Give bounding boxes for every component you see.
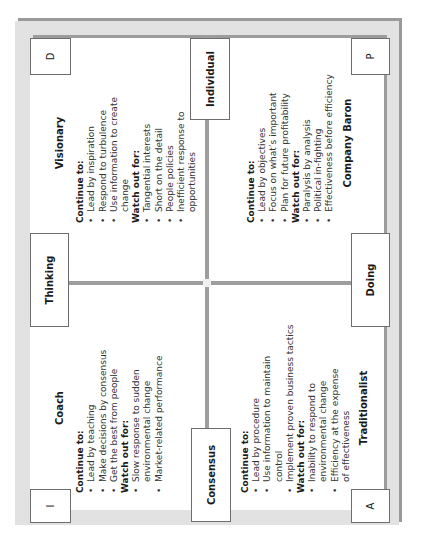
axis-label-thinking: Thinking bbox=[30, 233, 69, 327]
list-item: Focus on what’s important bbox=[268, 63, 279, 223]
axis-label-text: Individual bbox=[205, 51, 216, 107]
watch-list: Inability to respond to environmental ch… bbox=[307, 323, 352, 493]
continue-list: Lead by teaching Make decisions by conse… bbox=[86, 323, 120, 493]
continue-heading: Continue to: bbox=[240, 323, 251, 493]
list-item: Paralysis by analysis bbox=[302, 63, 313, 223]
corner-letter: P bbox=[365, 53, 376, 59]
list-item: Inefficient response to opportunities bbox=[176, 107, 198, 223]
corner-label-p: P bbox=[351, 38, 390, 75]
axis-label-text: Consensus bbox=[206, 445, 217, 505]
quadrant-visionary: Visionary Continue to: Lead by inspirati… bbox=[54, 63, 198, 223]
continue-list: Lead by inspiration Respond to turbulenc… bbox=[86, 63, 131, 223]
list-item: Lead by inspiration bbox=[86, 63, 97, 223]
list-item: Slow response to sudden environmental ch… bbox=[131, 362, 153, 493]
divider-intersection bbox=[203, 279, 211, 287]
watch-heading: Watch out for: bbox=[131, 63, 142, 223]
list-item: Implement proven business tactics bbox=[285, 323, 296, 493]
watch-heading: Watch out for: bbox=[296, 323, 307, 493]
continue-heading: Continue to: bbox=[75, 63, 86, 223]
continue-heading: Continue to: bbox=[246, 63, 257, 223]
corner-letter: D bbox=[45, 53, 56, 61]
list-item: Lead by objectives bbox=[257, 63, 268, 223]
list-item: Lead by procedure bbox=[251, 323, 262, 493]
corner-letter: A bbox=[365, 503, 376, 510]
list-item: Tangential interests bbox=[142, 63, 153, 223]
corner-letter: I bbox=[45, 505, 56, 508]
list-item: Short on the detail bbox=[154, 63, 165, 223]
axis-label-consensus: Consensus bbox=[191, 428, 231, 522]
list-item: Make decisions by consensus bbox=[98, 323, 109, 493]
list-item: Efficiency at the expense of effectivene… bbox=[330, 357, 352, 493]
quadrant-traditionalist: Continue to: Lead by procedure Use infor… bbox=[240, 323, 369, 493]
quadrant-coach: Coach Continue to: Lead by teaching Make… bbox=[54, 323, 165, 493]
list-item: Use information to maintain control bbox=[262, 323, 284, 493]
continue-list: Lead by procedure Use information to mai… bbox=[251, 323, 296, 493]
list-item: Lead by teaching bbox=[86, 323, 97, 493]
list-item: Political in-fighting bbox=[313, 63, 324, 223]
corner-label-a: A bbox=[351, 489, 390, 523]
quadrant-title: Traditionalist bbox=[358, 323, 369, 493]
quadrant-title: Company Baron bbox=[342, 63, 353, 223]
continue-list: Lead by objectives Focus on what’s impor… bbox=[257, 63, 291, 223]
quadrant-title: Visionary bbox=[54, 63, 65, 223]
list-item: Get the best from people bbox=[109, 323, 120, 493]
list-item: Inability to respond to environmental ch… bbox=[307, 372, 329, 493]
watch-heading: Watch out for: bbox=[120, 323, 131, 493]
axis-label-text: Doing bbox=[365, 264, 376, 297]
watch-list: Paralysis by analysis Political in-fight… bbox=[302, 63, 336, 223]
axis-label-text: Thinking bbox=[44, 256, 55, 305]
watch-list: Slow response to sudden environmental ch… bbox=[131, 323, 165, 493]
management-style-matrix: Thinking Doing Consensus Individual I D … bbox=[0, 0, 430, 553]
list-item: Use information to create change bbox=[109, 63, 131, 223]
corner-label-i: I bbox=[30, 489, 71, 523]
quadrant-company-baron: Continue to: Lead by objectives Focus on… bbox=[246, 63, 353, 223]
watch-heading: Watch out for: bbox=[291, 63, 302, 223]
axis-label-doing: Doing bbox=[351, 233, 390, 327]
list-item: Effectiveness before efficiency bbox=[324, 63, 335, 223]
quadrant-title: Coach bbox=[54, 323, 65, 493]
continue-heading: Continue to: bbox=[75, 323, 86, 493]
list-item: Plan for future profitability bbox=[280, 63, 291, 223]
list-item: Market-related performance bbox=[154, 323, 165, 493]
list-item: Respond to turbulence bbox=[98, 63, 109, 223]
list-item: People policies bbox=[165, 63, 176, 223]
watch-list: Tangential interests Short on the detail… bbox=[142, 63, 198, 223]
